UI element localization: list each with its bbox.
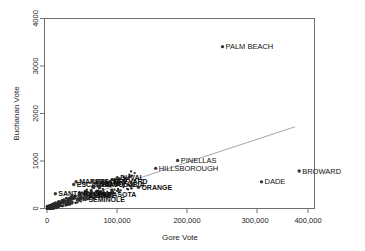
y-axis-ticks (40, 19, 45, 209)
x-tick-label-400000: 400,000 (294, 216, 321, 225)
point-label-broward: BROWARD (302, 167, 341, 176)
data-point (67, 204, 69, 206)
data-point (62, 200, 64, 202)
svg-text:4000: 4000 (31, 10, 40, 27)
data-point (57, 200, 59, 202)
data-point (65, 197, 67, 199)
x-axis-ticks (47, 209, 308, 214)
labeled-points-group: PALM BEACHBROWARDDADEPINELLASHILLSBOROUG… (54, 42, 342, 203)
data-point (71, 202, 73, 204)
point-label-pasco: PASCO (95, 178, 120, 185)
y-tick-label-1000: 1000 (31, 153, 40, 170)
data-point (61, 205, 63, 207)
y-axis-title: Buchanan Vote (12, 86, 21, 141)
y-tick-label-4000: 4000 (31, 10, 40, 27)
data-point (56, 205, 58, 207)
data-point-escambia (72, 183, 75, 186)
x-tick-label-100000: 100,000 (103, 216, 130, 225)
data-point-santa-rosa (54, 192, 57, 195)
data-point (52, 203, 54, 205)
scatter-chart-figure: 0 1000 2000 3000 4000 Buchanan Vote 0 10… (0, 0, 365, 251)
point-label-dade: DADE (264, 177, 285, 186)
data-point-manatee (77, 194, 80, 197)
data-point (130, 170, 132, 172)
point-label-palm-beach: PALM BEACH (225, 42, 273, 51)
point-label-manatee: MANATEE (82, 192, 116, 199)
data-point-palm-beach (221, 45, 224, 48)
x-axis-title: Gore Vote (162, 233, 199, 242)
data-point (68, 200, 70, 202)
data-point (69, 203, 71, 205)
x-tick-label-200000: 200,000 (173, 216, 200, 225)
data-point (77, 198, 79, 200)
plot-canvas: 0 1000 2000 3000 4000 Buchanan Vote 0 10… (0, 0, 365, 251)
svg-text:3000: 3000 (31, 58, 40, 75)
data-point (59, 204, 61, 206)
y-tick-label-3000: 3000 (31, 58, 40, 75)
data-point-broward (298, 169, 301, 172)
y-tick-label-0: 0 (31, 206, 40, 210)
data-point-dade (260, 180, 263, 183)
data-point (50, 207, 52, 209)
data-point-pinellas (176, 159, 179, 162)
x-tick-label-0: 0 (45, 216, 49, 225)
data-point (70, 198, 72, 200)
data-point (74, 201, 76, 203)
data-point-hillsborough (154, 167, 157, 170)
svg-text:0: 0 (31, 206, 40, 210)
svg-text:1000: 1000 (31, 153, 40, 170)
data-point (60, 202, 62, 204)
x-tick-label-300000: 300,000 (241, 216, 268, 225)
svg-text:2000: 2000 (31, 105, 40, 122)
y-tick-label-2000: 2000 (31, 105, 40, 122)
data-point (64, 202, 66, 204)
point-label-hillsborough: HILLSBOROUGH (159, 164, 219, 173)
data-point-pasco (91, 180, 94, 183)
data-point (46, 206, 48, 208)
